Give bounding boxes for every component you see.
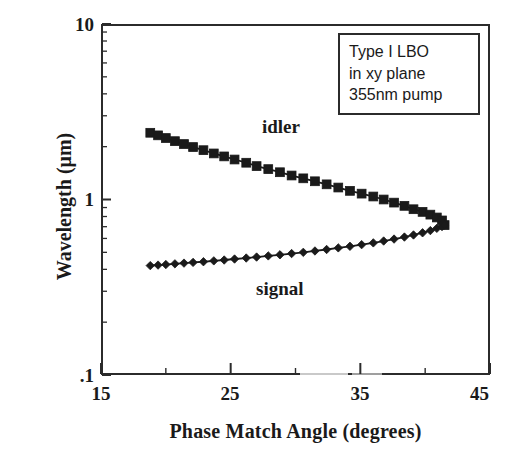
x-tick-label-15: 15 — [81, 384, 121, 403]
marker-square — [299, 174, 308, 183]
annotation-line-3: 355nm pump — [349, 84, 469, 106]
marker-square — [199, 146, 208, 155]
marker-square — [357, 189, 366, 198]
series-label-idler: idler — [262, 116, 300, 138]
marker-diamond — [264, 252, 272, 260]
marker-square — [230, 155, 239, 164]
marker-square — [220, 152, 229, 161]
marker-square — [369, 192, 378, 201]
y-tick-label-point1: .1 — [58, 366, 94, 385]
x-tick-label-25: 25 — [210, 384, 250, 403]
marker-square — [322, 180, 331, 189]
marker-diamond — [400, 233, 408, 241]
marker-square — [334, 183, 343, 192]
marker-diamond — [230, 255, 238, 263]
marker-diamond — [322, 245, 330, 253]
marker-diamond — [287, 249, 295, 257]
marker-square — [171, 137, 180, 146]
marker-square — [161, 134, 170, 143]
x-axis-title: Phase Match Angle (degrees) — [101, 420, 490, 443]
marker-diamond — [418, 229, 426, 237]
marker-diamond — [346, 242, 354, 250]
marker-diamond — [189, 258, 197, 266]
annotation-line-1: Type I LBO — [349, 41, 469, 63]
marker-square — [252, 162, 261, 171]
marker-diamond — [146, 261, 154, 269]
marker-diamond — [334, 244, 342, 252]
marker-square — [276, 168, 285, 177]
marker-diamond — [276, 251, 284, 259]
y-tick-label-10: 10 — [58, 15, 94, 34]
marker-square — [400, 201, 409, 210]
marker-diamond — [199, 258, 207, 266]
marker-square — [209, 149, 218, 158]
marker-diamond — [357, 240, 365, 248]
marker-diamond — [299, 248, 307, 256]
marker-diamond — [171, 260, 179, 268]
marker-square — [346, 186, 355, 195]
x-axis-minor-ticks — [166, 368, 425, 374]
marker-square — [242, 158, 251, 167]
series-idler — [146, 128, 449, 229]
x-tick-label-45: 45 — [470, 384, 510, 403]
marker-square — [379, 195, 388, 204]
marker-square — [180, 140, 189, 149]
y-axis-title: Wavelength (μm) — [53, 47, 76, 367]
marker-diamond — [369, 239, 377, 247]
annotation-line-2: in xy plane — [349, 63, 469, 85]
marker-square — [264, 165, 273, 174]
series-signal — [146, 221, 449, 270]
annotation-text-box: Type I LBO in xy plane 355nm pump — [338, 33, 480, 115]
marker-diamond — [210, 257, 218, 265]
marker-diamond — [409, 231, 417, 239]
marker-diamond — [162, 260, 170, 268]
marker-diamond — [390, 235, 398, 243]
y-axis-minor-ticks — [102, 32, 107, 322]
marker-square — [311, 177, 320, 186]
marker-diamond — [180, 259, 188, 267]
marker-diamond — [242, 254, 250, 262]
marker-square — [390, 198, 399, 207]
x-tick-label-35: 35 — [340, 384, 380, 403]
series-label-signal: signal — [256, 278, 304, 300]
data-series-layer — [146, 128, 449, 269]
marker-diamond — [220, 256, 228, 264]
marker-square — [287, 171, 296, 180]
figure-container: 10 1 .1 15 25 35 45 Phase Match Angle (d… — [0, 0, 522, 468]
marker-diamond — [252, 253, 260, 261]
marker-diamond — [154, 261, 162, 269]
marker-square — [409, 205, 418, 214]
marker-square — [189, 143, 198, 152]
marker-diamond — [311, 247, 319, 255]
marker-diamond — [379, 237, 387, 245]
